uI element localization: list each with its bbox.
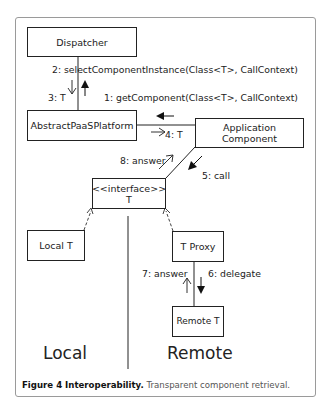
arrow-6-filled-down bbox=[197, 277, 205, 294]
figure-caption: Figure 4 Interoperability. Transparent c… bbox=[22, 380, 290, 390]
arrow-3-open-down bbox=[68, 80, 76, 94]
local-t-box: Local T bbox=[27, 230, 85, 261]
message-7-label: 7: answer bbox=[142, 268, 188, 279]
t-proxy-label: T Proxy bbox=[181, 241, 216, 252]
platform-box: AbstractPaaSPlatform bbox=[27, 110, 137, 141]
app-component-label: Application Component bbox=[196, 122, 303, 144]
interface-name: T bbox=[126, 194, 132, 205]
region-local-label: Local bbox=[43, 343, 87, 363]
message-3-label: 3: T bbox=[48, 92, 66, 103]
caption-label: Figure 4 Interoperability. bbox=[22, 380, 144, 390]
caption-text: Transparent component retrieval. bbox=[144, 380, 290, 390]
message-1-label: 1: getComponent(Class<T>, CallContext) bbox=[104, 92, 298, 103]
remote-t-box: Remote T bbox=[172, 306, 224, 337]
region-remote-label: Remote bbox=[167, 343, 233, 363]
remote-t-label: Remote T bbox=[176, 316, 219, 327]
arrow-4-open-right bbox=[151, 128, 165, 136]
dispatcher-box: Dispatcher bbox=[27, 27, 137, 57]
app-component-box: Application Component bbox=[195, 118, 304, 148]
message-6-label: 6: delegate bbox=[208, 268, 261, 279]
arrow-5-filled-down-left bbox=[188, 156, 202, 170]
local-t-label: Local T bbox=[39, 240, 72, 251]
arrow-2-filled-up bbox=[81, 80, 89, 96]
message-2-label: 2: selectComponentInstance(Class<T>, Cal… bbox=[52, 64, 298, 75]
message-8-label: 8: answer bbox=[120, 155, 166, 166]
interface-box: <<interface>> T bbox=[92, 178, 166, 209]
dispatcher-label: Dispatcher bbox=[56, 37, 107, 48]
arrow-1-filled-left bbox=[156, 112, 174, 120]
interface-stereotype: <<interface>> bbox=[92, 183, 166, 194]
platform-label: AbstractPaaSPlatform bbox=[31, 120, 134, 131]
t-proxy-box: T Proxy bbox=[172, 231, 224, 262]
arrow-7-open-up bbox=[183, 278, 191, 293]
message-5-label: 5: call bbox=[202, 170, 230, 181]
message-4-label: 4: T bbox=[165, 129, 183, 140]
